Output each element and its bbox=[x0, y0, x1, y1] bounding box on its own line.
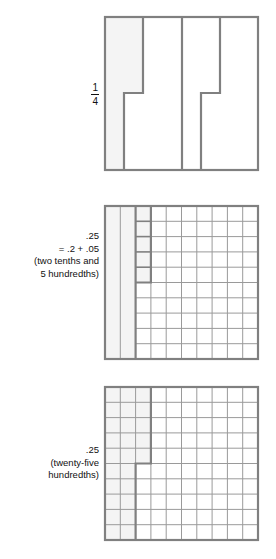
label-line-2: (twenty-five bbox=[3, 457, 99, 470]
label-line-3: hundredths) bbox=[3, 469, 99, 482]
figure-hundredths-label: .25 (twenty-five hundredths) bbox=[3, 444, 99, 482]
label-line-4: 5 hundredths) bbox=[3, 268, 99, 281]
fourths-square-diagram bbox=[103, 15, 260, 172]
divider-part-3-4 bbox=[201, 17, 220, 170]
fraction-one-fourth: 1 4 bbox=[91, 82, 99, 107]
hundredths-diagram bbox=[103, 385, 260, 542]
fraction-numerator: 1 bbox=[91, 82, 99, 95]
hundredths-svg bbox=[103, 385, 260, 542]
label-line-2: = .2 + .05 bbox=[3, 243, 99, 256]
tenths-hundredths-diagram bbox=[103, 204, 260, 361]
label-line-1: .25 bbox=[3, 230, 99, 243]
fourths-square-svg bbox=[103, 15, 260, 172]
label-line-1: .25 bbox=[3, 444, 99, 457]
tenths-hundredths-svg bbox=[103, 204, 260, 361]
shaded-five-hundredths bbox=[136, 206, 151, 283]
figure-fourths-label: 1 4 bbox=[3, 82, 99, 109]
fraction-denominator: 4 bbox=[91, 95, 99, 107]
figure-tenths-hundredths-label: .25 = .2 + .05 (two tenths and 5 hundred… bbox=[3, 230, 99, 280]
label-line-3: (two tenths and bbox=[3, 255, 99, 268]
